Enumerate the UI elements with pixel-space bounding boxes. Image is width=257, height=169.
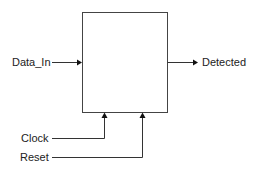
reset-label: Reset bbox=[20, 151, 49, 163]
data-in-label: Data_In bbox=[12, 56, 51, 68]
reset-arrowhead-icon bbox=[140, 113, 146, 119]
data-in-arrowhead-icon bbox=[77, 60, 82, 66]
detected-label: Detected bbox=[202, 56, 246, 68]
detected-arrowhead-icon bbox=[193, 60, 198, 66]
clock-wire bbox=[52, 117, 105, 139]
reset-wire bbox=[52, 117, 143, 158]
detector-block bbox=[83, 13, 168, 113]
clock-arrowhead-icon bbox=[102, 113, 108, 119]
block-diagram: Data_In Detected Clock Reset bbox=[0, 0, 257, 169]
clock-label: Clock bbox=[21, 132, 49, 144]
